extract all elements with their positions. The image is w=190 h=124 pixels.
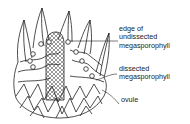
leader-line-ovule bbox=[102, 90, 119, 104]
ovule bbox=[80, 59, 85, 64]
ovule bbox=[28, 59, 33, 64]
ovule bbox=[84, 67, 89, 72]
ovule bbox=[47, 40, 52, 45]
ovule bbox=[31, 65, 36, 70]
ovule bbox=[90, 74, 95, 79]
label-edge-of-undissected-megasporophyll: edge of undissected megasporophyll bbox=[119, 25, 170, 50]
label-line: megasporophyll bbox=[119, 73, 170, 81]
ovule bbox=[39, 42, 44, 47]
label-ovule: ovule bbox=[121, 96, 138, 104]
ovule bbox=[74, 50, 79, 55]
leader-line-dissected bbox=[96, 74, 117, 80]
ovule bbox=[66, 40, 71, 45]
label-dissected-megasporophyll: dissected megasporophyll bbox=[119, 65, 170, 82]
ovule bbox=[31, 52, 36, 57]
label-line: ovule bbox=[121, 96, 138, 104]
cone-illustration bbox=[0, 0, 190, 124]
label-line: megasporophyll bbox=[119, 42, 170, 50]
